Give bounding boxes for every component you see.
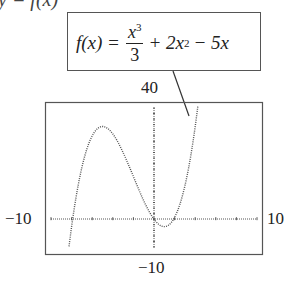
x-min-label: −10 <box>5 209 32 229</box>
y-min-label: −10 <box>138 258 165 278</box>
function-curve <box>69 107 198 247</box>
callout-leader-line <box>173 71 189 116</box>
x-max-label: 10 <box>267 209 284 229</box>
graph-canvas <box>0 0 297 292</box>
y-max-label: 40 <box>141 78 158 98</box>
